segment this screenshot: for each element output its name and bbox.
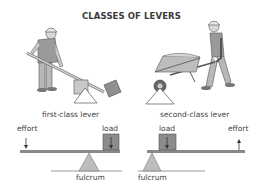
fulcrum-triangle — [79, 153, 99, 171]
second-class-lever-schematic — [138, 134, 245, 171]
first-class-fulcrum-label: fulcrum — [76, 173, 105, 182]
second-class-load-label: load — [159, 124, 175, 133]
first-class-caption: first-class lever — [42, 110, 99, 119]
first-class-effort-label: effort — [17, 124, 37, 133]
effort-arrow-up-icon — [237, 139, 241, 143]
first-class-load-label: load — [102, 124, 118, 133]
lever-beam — [20, 150, 120, 153]
first-class-lever-schematic — [20, 134, 122, 171]
levers-illustration — [0, 0, 263, 191]
effort-arrow-down-icon — [24, 145, 28, 149]
second-class-effort-label: effort — [228, 124, 248, 133]
fulcrum-triangle — [143, 153, 161, 171]
lever-beam — [147, 150, 245, 153]
first-class-worker-illustration — [27, 28, 121, 103]
second-class-fulcrum-label: fulcrum — [138, 173, 167, 182]
second-class-caption: second-class lever — [160, 110, 229, 119]
second-class-worker-illustration — [146, 21, 235, 104]
